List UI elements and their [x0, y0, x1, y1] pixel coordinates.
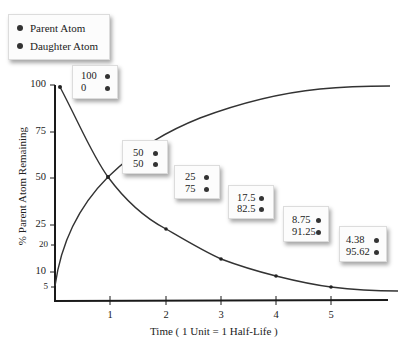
parent-value: 8.75	[292, 214, 310, 226]
x-axis-title: Time ( 1 Unit = 1 Half-Life )	[150, 325, 278, 337]
parent-value: 25	[185, 171, 196, 183]
daughter-value: 50	[133, 158, 144, 170]
daughter-value: 75	[185, 183, 196, 195]
value-box-t3: 17.5 82.5	[228, 185, 274, 219]
bullet-icon	[316, 218, 321, 223]
bullet-icon	[153, 162, 158, 167]
y-axis-title: % Parent Atom Remaining	[16, 106, 28, 266]
x-tick-label: 2	[160, 309, 172, 320]
daughter-value: 95.62	[346, 246, 370, 258]
legend: Parent Atom Daughter Atom	[8, 14, 110, 60]
value-box-t0: 100 0	[72, 65, 118, 99]
x-tick-label: 3	[215, 309, 227, 320]
y-tick-label: 100	[16, 78, 46, 89]
bullet-icon	[259, 207, 264, 212]
legend-item-daughter: Daughter Atom	[17, 40, 98, 52]
x-tick-label: 5	[325, 309, 337, 320]
bullet-icon	[204, 187, 209, 192]
legend-label: Daughter Atom	[30, 40, 98, 52]
bullet-icon	[17, 25, 23, 31]
daughter-value: 0	[81, 82, 86, 94]
bullet-icon	[105, 74, 110, 79]
parent-value: 4.38	[346, 234, 364, 246]
bullet-icon	[105, 86, 110, 91]
value-box-t4: 8.75 91.25	[283, 206, 329, 242]
legend-item-parent: Parent Atom	[17, 22, 85, 34]
value-box-t5: 4.38 95.62	[339, 226, 387, 262]
daughter-value: 91.25	[292, 226, 316, 238]
x-tick-label: 4	[270, 309, 282, 320]
legend-label: Parent Atom	[30, 22, 85, 34]
y-tick-label: 10	[16, 265, 46, 276]
parent-value: 100	[81, 70, 97, 82]
bullet-icon	[153, 151, 158, 156]
bullet-icon	[17, 43, 23, 49]
value-box-t2: 25 75	[174, 165, 220, 199]
bullet-icon	[316, 230, 321, 235]
value-box-t1: 50 50	[122, 140, 168, 174]
bullet-icon	[204, 175, 209, 180]
y-tick-label: 5	[18, 281, 48, 291]
bullet-icon	[259, 196, 264, 201]
bullet-icon	[374, 238, 379, 243]
bullet-icon	[374, 250, 379, 255]
x-tick-label: 1	[104, 309, 116, 320]
daughter-value: 82.5	[237, 203, 255, 215]
